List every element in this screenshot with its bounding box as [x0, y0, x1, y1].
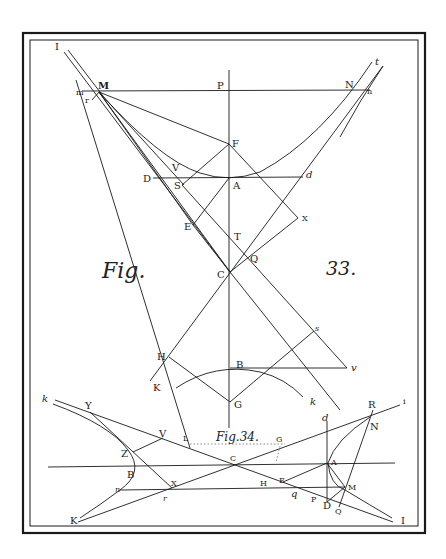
label-fig33-s: s: [315, 325, 319, 333]
label-fig33-T: T: [234, 232, 241, 242]
figure-33: [64, 50, 383, 448]
label-fig34-r: r: [163, 495, 167, 503]
caption-fig34: Fig.34.: [216, 430, 259, 444]
label-fig34-V: V: [159, 429, 166, 439]
label-fig33-B: B: [236, 360, 243, 370]
label-fig34-K: K: [70, 516, 77, 526]
label-fig34-q: q: [291, 489, 297, 499]
label-fig34-n: n: [115, 486, 120, 494]
label-fig34-G: G: [276, 436, 282, 444]
label-fig33-N: N: [345, 80, 354, 90]
label-fig34-Q: Q: [335, 508, 342, 516]
label-fig33-E: E: [184, 222, 191, 232]
label-fig33-F: F: [232, 139, 239, 149]
label-fig34-d: d: [322, 413, 328, 423]
label-fig33-Q: Q: [250, 254, 258, 264]
label-fig34-k: k: [42, 394, 48, 404]
label-fig33-t: t: [375, 57, 379, 67]
label-fig34-E: E: [279, 477, 285, 485]
label-fig33-C: C: [217, 270, 225, 280]
label-fig33-V: V: [172, 163, 179, 173]
label-fig34-C: C: [230, 455, 236, 463]
label-fig33-S: S: [174, 181, 181, 191]
label-fig33-I: I: [55, 42, 59, 52]
label-fig34-X: X: [171, 480, 177, 488]
label-fig33-D: D: [143, 174, 151, 184]
label-fig33-P: P: [217, 81, 224, 91]
label-fig34-B: B: [127, 470, 134, 480]
caption-fig33-word: Fig.: [102, 258, 145, 283]
caption-fig33-number: 33.: [326, 257, 356, 279]
label-fig33-r: r: [85, 97, 89, 105]
label-fig33-n: n: [367, 88, 372, 96]
label-fig34-I: I: [401, 516, 405, 526]
label-fig33-K: K: [153, 383, 160, 393]
label-fig34-L: L: [183, 435, 188, 443]
label-fig34-N: N: [370, 422, 379, 432]
label-fig33-X: X: [302, 215, 308, 223]
label-fig33-G: G: [234, 400, 242, 410]
label-fig33-d: d: [306, 170, 312, 180]
plate-frame: [23, 33, 425, 533]
label-fig34-H: H: [260, 480, 267, 488]
label-fig34-i: i: [403, 398, 406, 406]
label-fig33-v: v: [351, 363, 357, 373]
label-fig34-D: D: [323, 501, 331, 511]
figure-34-dotted-line: [190, 444, 285, 462]
label-fig33-H: H: [157, 352, 166, 362]
figure-34: [48, 400, 400, 522]
label-fig34-Z: Z: [121, 449, 128, 459]
label-fig33-m: m: [76, 89, 84, 97]
label-fig34-M: M: [348, 484, 356, 492]
label-fig34-P: P: [311, 496, 316, 504]
label-fig34-R: R: [368, 400, 376, 410]
label-fig33-M: M: [98, 81, 109, 91]
label-fig33-A: A: [233, 181, 240, 191]
label-fig34-A: A: [331, 459, 337, 467]
label-fig34-Y: Y: [85, 401, 92, 411]
label-fig33-k: k: [310, 397, 316, 407]
